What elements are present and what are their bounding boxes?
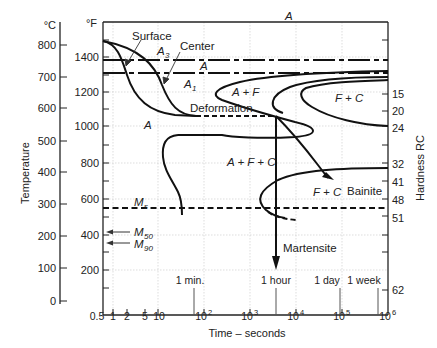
time-tick: 0.5: [90, 310, 105, 322]
leader-lines: [125, 40, 180, 84]
celsius-tick: 600: [38, 102, 56, 114]
marker-1-week: 1 week: [347, 274, 381, 286]
svg-text:50: 50: [144, 232, 153, 241]
x-axis-title: Time – seconds: [208, 327, 286, 339]
fahrenheit-axis: °F 1400 1200 1000 800 600 400 200: [75, 17, 109, 288]
region-austenite-mid: A: [199, 60, 208, 72]
time-tick: 10 4: [287, 308, 304, 322]
cooling-curves: [103, 41, 196, 116]
svg-text:M: M: [134, 196, 144, 208]
ttt-diagram: °C 800 700 600 500 400 300 200 100 0 Tem…: [0, 0, 437, 348]
hardness-tick: 41: [392, 176, 404, 188]
region-austenite-low: A: [143, 119, 152, 131]
celsius-tick: 100: [38, 262, 56, 274]
svg-text:6: 6: [392, 308, 396, 317]
svg-text:2: 2: [208, 308, 212, 317]
fahrenheit-tick: 800: [81, 157, 99, 169]
celsius-unit: °C: [44, 19, 56, 31]
celsius-tick: 300: [38, 198, 56, 210]
celsius-tick: 400: [38, 166, 56, 178]
fahrenheit-unit: °F: [86, 17, 97, 29]
region-f-plus-c-lower: F + C: [313, 186, 342, 198]
celsius-tick: 700: [38, 71, 56, 83]
svg-text:1: 1: [192, 84, 196, 93]
marker-1-min: 1 min.: [176, 274, 205, 286]
time-tick: 10 3: [241, 308, 258, 322]
hardness-tick: 51: [392, 212, 404, 224]
svg-text:10: 10: [379, 310, 391, 322]
martensite-label: Martensite: [283, 242, 337, 254]
hardness-tick: 20: [392, 105, 404, 117]
center-label: Center: [180, 40, 215, 52]
hardness-tick: 62: [392, 284, 404, 296]
right-axis-title: Hardness RC: [414, 135, 426, 201]
svg-text:10: 10: [287, 310, 299, 322]
surface-label: Surface: [132, 30, 172, 42]
svg-text:90: 90: [144, 244, 153, 253]
svg-text:M: M: [134, 226, 144, 238]
svg-text:A: A: [156, 45, 165, 57]
y-axis-title: Temperature: [19, 142, 31, 204]
svg-text:3: 3: [165, 51, 170, 60]
hardness-tick: 24: [392, 122, 404, 134]
time-axis: 0.5 1 2 5 10 10 2 10 3 10 4 10 5 10 6 Ti…: [90, 308, 396, 339]
deformation-label: Deformation: [190, 102, 253, 114]
time-tick: 5: [142, 310, 148, 322]
svg-text:s: s: [144, 202, 148, 211]
svg-text:10: 10: [333, 310, 345, 322]
svg-text:3: 3: [254, 308, 258, 317]
m90-arrow: [106, 241, 130, 246]
svg-text:A: A: [183, 78, 192, 90]
region-a-plus-f-plus-c: A + F + C: [226, 156, 276, 168]
time-tick: 10 5: [333, 308, 350, 322]
svg-text:M: M: [134, 238, 144, 250]
m50-arrow: [106, 230, 130, 235]
time-markers: [194, 288, 378, 315]
a3-label: A 3: [156, 45, 170, 60]
fahrenheit-tick: 400: [81, 229, 99, 241]
critical-lines: [103, 60, 388, 73]
hardness-tick: 32: [392, 158, 404, 170]
region-austenite-top: A: [284, 10, 293, 22]
marker-1-hour: 1 hour: [261, 274, 291, 286]
fahrenheit-tick: 1400: [75, 51, 99, 63]
fahrenheit-tick: 1000: [75, 120, 99, 132]
time-tick: 10: [153, 310, 165, 322]
time-tick: 1: [110, 310, 116, 322]
svg-text:5: 5: [346, 308, 350, 317]
region-f-plus-c-upper: F + C: [335, 92, 364, 104]
time-tick: 10 2: [195, 308, 212, 322]
svg-text:10: 10: [241, 310, 253, 322]
hardness-tick: 15: [392, 88, 404, 100]
hardness-tick: 48: [392, 194, 404, 206]
fahrenheit-tick: 1200: [75, 86, 99, 98]
marker-1-day: 1 day: [314, 274, 340, 286]
svg-text:10: 10: [195, 310, 207, 322]
celsius-tick: 0: [50, 295, 56, 307]
bainite-label: Bainite: [347, 185, 382, 197]
svg-text:4: 4: [300, 308, 304, 317]
region-a-plus-f: A + F: [231, 86, 260, 98]
celsius-tick: 800: [38, 39, 56, 51]
martensite-arrow: [272, 116, 280, 270]
time-tick: 2: [124, 310, 130, 322]
celsius-axis: °C 800 700 600 500 400 300 200 100 0 Tem…: [19, 19, 67, 307]
celsius-tick: 500: [38, 135, 56, 147]
a1-label: A 1: [183, 78, 196, 93]
fahrenheit-tick: 600: [81, 193, 99, 205]
celsius-tick: 200: [38, 230, 56, 242]
fahrenheit-tick: 200: [81, 264, 99, 276]
surface-curve: [103, 41, 196, 116]
time-tick: 10 6: [379, 308, 396, 322]
bainite-region-curve: [163, 135, 182, 215]
